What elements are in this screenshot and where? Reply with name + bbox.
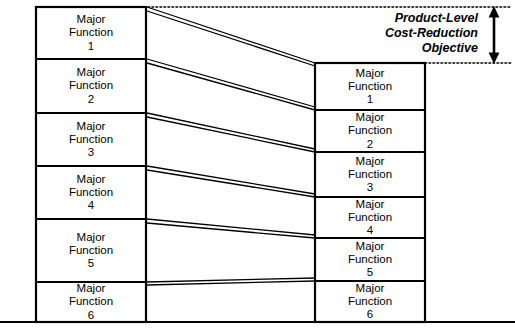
cost-reduction-objective-label: Product-Level Cost-Reduction Objective xyxy=(355,11,478,55)
right-stack-outline xyxy=(315,63,425,322)
left-stack-outline xyxy=(36,7,146,322)
cost-reduction-diagram: Major Function 1 Major Function 2 Major … xyxy=(0,0,515,334)
connector-bands xyxy=(147,7,315,285)
cost-reduction-arrow-icon xyxy=(489,6,500,64)
